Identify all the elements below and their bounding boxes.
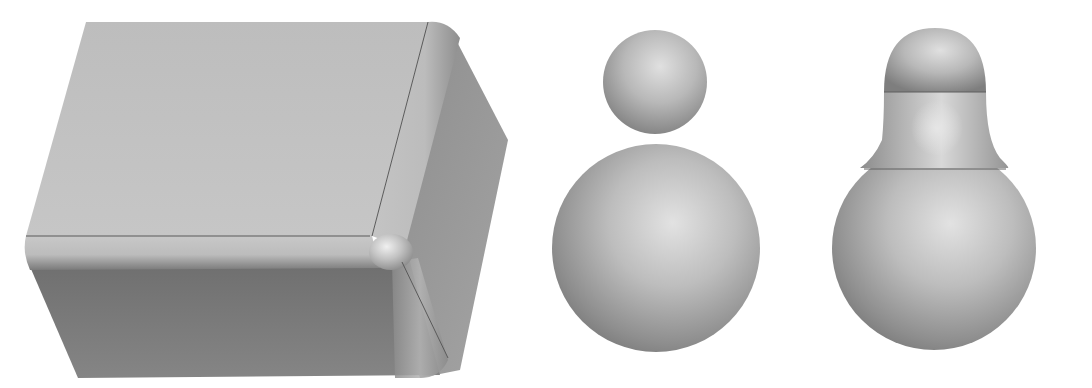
neck-highlight xyxy=(911,100,963,156)
box-corner-sphere xyxy=(369,234,413,270)
two-separate-spheres xyxy=(552,30,760,352)
box-top-face xyxy=(26,22,428,236)
small-sphere xyxy=(603,30,707,134)
figure-svg xyxy=(0,0,1092,388)
blend-large-sphere xyxy=(832,146,1036,350)
blended-spheres xyxy=(832,28,1036,350)
blend-top-cap xyxy=(884,28,986,92)
figure-canvas xyxy=(0,0,1092,388)
box-front-face xyxy=(28,262,440,378)
box-front-top-fillet xyxy=(25,236,380,270)
large-sphere xyxy=(552,144,760,352)
filleted-box xyxy=(25,22,508,378)
